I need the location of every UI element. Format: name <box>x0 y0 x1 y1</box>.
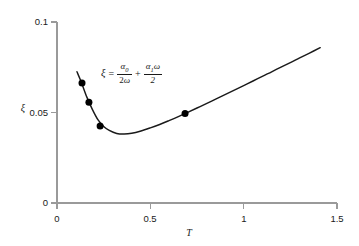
x-axis-title: T <box>182 228 196 238</box>
data-point-marker <box>85 99 92 106</box>
series-line-0 <box>77 48 320 134</box>
equation-plus: + <box>134 69 142 79</box>
y-tick-label-0.1: 0.1 <box>14 17 48 27</box>
x-tick-label-1.5: 1.5 <box>322 214 352 224</box>
x-tick-label-0.5: 0.5 <box>135 214 165 224</box>
data-point-marker <box>79 80 86 87</box>
alpha-zero-subscript: 0 <box>125 66 128 73</box>
chart-figure: ξ 0.1 0.05 0 0 0.5 1 1.5 T ξ = α0 2ω + α… <box>0 0 359 246</box>
x-tick-label-1: 1 <box>229 214 259 224</box>
omega-symbol-1: ω <box>124 75 130 85</box>
equation-term-2: α1ω 2 <box>144 62 162 85</box>
equation-term1-denominator: 2ω <box>117 75 132 85</box>
equation-term2-numerator: α1ω <box>144 62 162 74</box>
omega-symbol-2: ω <box>154 61 160 71</box>
data-point-marker <box>182 110 189 117</box>
x-tick-label-0: 0 <box>42 214 72 224</box>
equation-term-1: α0 2ω <box>117 62 132 85</box>
data-series-group <box>77 48 320 134</box>
y-tick-label-0: 0 <box>14 198 48 208</box>
equation-term1-numerator: α0 <box>119 62 131 74</box>
equation-term2-denominator: 2 <box>149 75 158 85</box>
y-tick-label-0.05: 0.05 <box>14 108 48 118</box>
equation-equals: = <box>108 69 116 79</box>
plot-canvas <box>0 0 359 246</box>
equation-lhs: ξ <box>101 68 106 79</box>
damping-equation-annotation: ξ = α0 2ω + α1ω 2 <box>101 62 162 85</box>
data-point-marker <box>97 123 104 130</box>
